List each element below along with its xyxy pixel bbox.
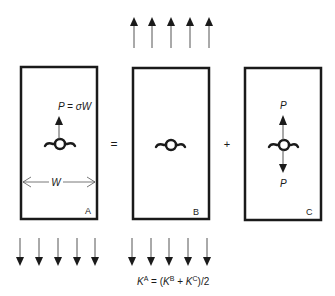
plus-operator: + xyxy=(224,138,230,150)
arrow-up-icon xyxy=(205,17,213,48)
width-label: W xyxy=(51,177,62,188)
panel-label-a: A xyxy=(85,206,91,216)
arrow-down-icon xyxy=(91,238,99,266)
arrow-up-icon xyxy=(130,17,138,48)
superposition-formula: KA = (KB + KC)/2 xyxy=(137,275,210,287)
load-label-top: P xyxy=(280,100,287,111)
arrow-down-icon xyxy=(128,238,136,266)
panel-b: B xyxy=(133,68,209,219)
top-remote-stress-arrows xyxy=(130,17,213,48)
bottom-remote-stress-arrows-b xyxy=(128,238,211,266)
panel-label-c: C xyxy=(306,207,313,217)
load-label-bottom: P xyxy=(280,178,287,189)
arrow-up-icon xyxy=(167,17,175,48)
point-load-up-arrow-icon xyxy=(55,116,63,139)
arrow-down-icon xyxy=(203,238,211,266)
arrow-down-icon xyxy=(16,238,24,266)
crack-hole-icon xyxy=(269,140,298,150)
crack-hole-icon xyxy=(156,140,185,150)
arrow-up-icon xyxy=(148,17,156,48)
width-dimension: W xyxy=(23,177,95,188)
arrow-down-icon xyxy=(147,238,155,266)
superposition-diagram: P = σW W A = B + xyxy=(0,0,335,296)
crack-hole-icon xyxy=(45,139,75,149)
arrow-down-icon xyxy=(35,238,43,266)
panel-label-b: B xyxy=(193,207,199,217)
panel-c: P P C xyxy=(245,68,321,220)
load-label: P = σW xyxy=(58,101,93,112)
bottom-remote-stress-arrows-a xyxy=(16,238,99,266)
arrow-down-icon xyxy=(73,238,81,266)
point-load-down-arrow-icon xyxy=(279,150,287,173)
panel-a: P = σW W A xyxy=(21,67,97,219)
arrow-down-icon xyxy=(165,238,173,266)
arrow-up-icon xyxy=(186,17,194,48)
equals-operator: = xyxy=(110,137,117,151)
arrow-down-icon xyxy=(184,238,192,266)
arrow-down-icon xyxy=(54,238,62,266)
point-load-up-arrow-icon xyxy=(279,115,287,140)
